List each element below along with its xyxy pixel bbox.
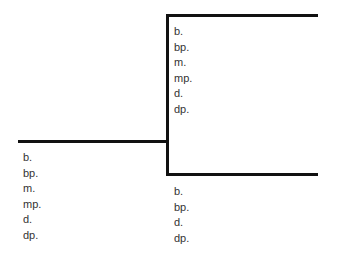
lower-branch-line xyxy=(166,173,318,176)
label: b. xyxy=(174,184,189,200)
label: dp. xyxy=(23,228,41,244)
label: m. xyxy=(174,55,192,71)
upper-branch-labels: b. bp. m. mp. d. dp. xyxy=(174,24,192,117)
upper-branch-line xyxy=(166,14,318,17)
label: bp. xyxy=(174,40,192,56)
root-labels: b. bp. m. mp. d. dp. xyxy=(23,150,41,243)
label: bp. xyxy=(23,166,41,182)
label: b. xyxy=(174,24,192,40)
label: m. xyxy=(23,181,41,197)
label: d. xyxy=(174,86,192,102)
label: dp. xyxy=(174,102,192,118)
label: bp. xyxy=(174,200,189,216)
label: b. xyxy=(23,150,41,166)
lower-branch-labels: b. bp. d. dp. xyxy=(174,184,189,246)
label: mp. xyxy=(174,71,192,87)
root-branch-line xyxy=(18,140,168,143)
label: mp. xyxy=(23,197,41,213)
label: dp. xyxy=(174,231,189,247)
vertical-connector-line xyxy=(166,14,169,176)
label: d. xyxy=(174,215,189,231)
label: d. xyxy=(23,212,41,228)
